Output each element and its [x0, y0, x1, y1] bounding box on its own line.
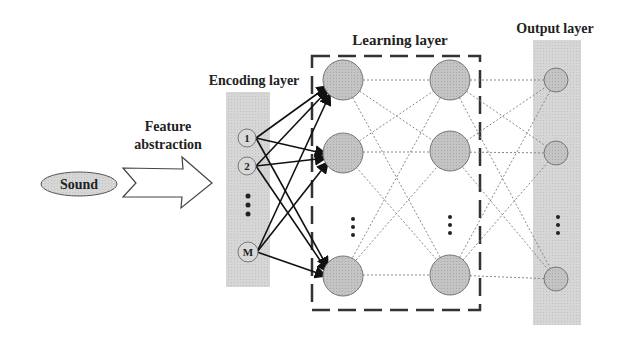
learning-node — [430, 60, 470, 100]
learning-node — [323, 133, 363, 173]
encoding-node-m: M — [243, 246, 254, 258]
learning-layer-title: Learning layer — [352, 32, 448, 48]
learning-nodes — [323, 60, 470, 296]
learning-node — [430, 131, 470, 171]
encoding-layer-title: Encoding layer — [209, 73, 300, 88]
output-node — [544, 267, 568, 291]
encoding-node-1: 1 — [244, 132, 250, 144]
network-diagram: 1 2 M Sound Feature abstraction Encoding… — [0, 0, 629, 340]
learning-node — [323, 60, 363, 100]
encoding-node-2: 2 — [244, 160, 250, 172]
feature-abstraction-arrow — [123, 157, 212, 208]
output-node — [544, 141, 568, 165]
output-layer-title: Output layer — [516, 21, 593, 36]
hidden-connections — [343, 80, 556, 279]
feature-label: Feature — [145, 119, 191, 134]
abstraction-label: abstraction — [134, 137, 202, 152]
learning-node — [323, 256, 363, 296]
sound-label: Sound — [60, 177, 98, 192]
ellipsis-dots — [246, 194, 561, 238]
output-node — [544, 68, 568, 92]
learning-node — [430, 255, 470, 295]
